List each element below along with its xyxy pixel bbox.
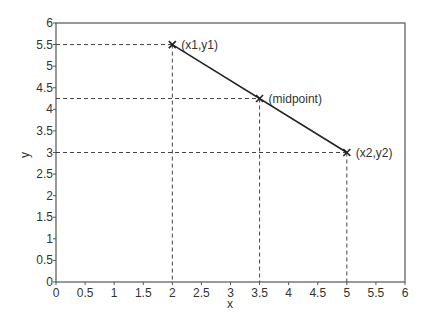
point-label: (x1,y1) [181, 38, 218, 52]
chart: 00.511.522.533.544.555.5600.511.522.533.… [0, 0, 433, 326]
x-tick-label: 5 [343, 286, 350, 300]
y-tick-label: 0.5 [36, 253, 53, 267]
y-tick-label: 5 [46, 59, 53, 73]
axis-ticks: 00.511.522.533.544.555.5600.511.522.533.… [36, 16, 408, 300]
x-axis-label: x [227, 297, 233, 311]
x-tick-label: 4 [285, 286, 292, 300]
x-tick-label: 4.5 [309, 286, 326, 300]
y-axis-label: y [18, 152, 32, 158]
y-tick-label: 1 [46, 232, 53, 246]
y-tick-label: 0 [46, 275, 53, 289]
x-tick-label: 0.5 [77, 286, 94, 300]
x-tick-label: 2 [169, 286, 176, 300]
point-label: (midpoint) [269, 92, 322, 106]
x-tick-label: 5.5 [368, 286, 385, 300]
x-tick-label: 1.5 [135, 286, 152, 300]
x-tick-label: 1 [111, 286, 118, 300]
projection-lines [56, 45, 347, 282]
y-tick-label: 4.5 [36, 81, 53, 95]
y-tick-label: 3 [46, 146, 53, 160]
point-label: (x2,y2) [356, 146, 393, 160]
data-points: (x1,y1)(midpoint)(x2,y2) [169, 38, 393, 160]
x-tick-label: 2.5 [193, 286, 210, 300]
y-tick-label: 2 [46, 189, 53, 203]
y-tick-label: 1.5 [36, 210, 53, 224]
y-tick-label: 5.5 [36, 38, 53, 52]
y-tick-label: 6 [46, 16, 53, 30]
y-tick-label: 3.5 [36, 124, 53, 138]
x-tick-label: 6 [402, 286, 409, 300]
y-tick-label: 4 [46, 102, 53, 116]
y-tick-label: 2.5 [36, 167, 53, 181]
x-tick-label: 3.5 [251, 286, 268, 300]
x-tick-label: 0 [53, 286, 60, 300]
